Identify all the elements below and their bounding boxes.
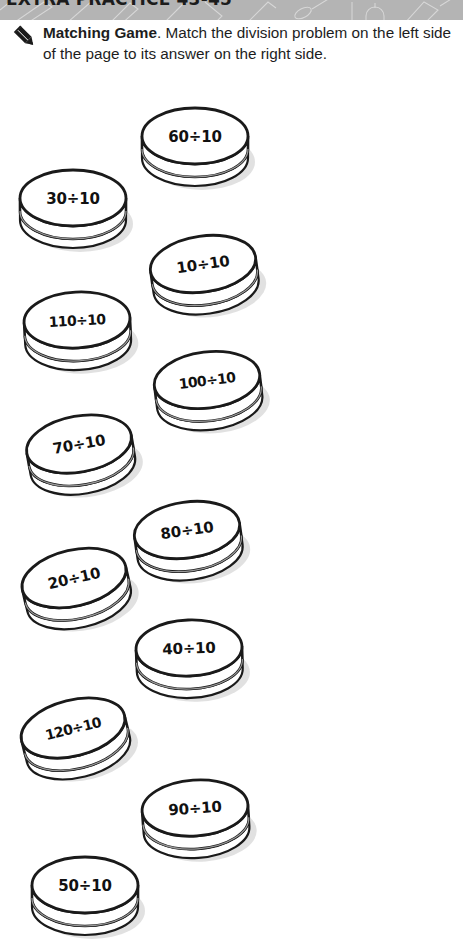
coin-graphic: 70÷10 xyxy=(18,404,146,500)
coin-label: 110÷10 xyxy=(48,311,106,330)
coin-label: 40÷10 xyxy=(162,639,216,659)
coin-label: 60÷10 xyxy=(168,128,221,146)
coin-label: 50÷10 xyxy=(58,877,111,895)
coin-graphic: 10÷10 xyxy=(142,224,270,320)
coin-100-div-10[interactable]: 100÷10 xyxy=(146,340,274,436)
coin-graphic: 30÷10 xyxy=(12,158,140,254)
coin-label: 30÷10 xyxy=(46,190,99,208)
coin-70-div-10[interactable]: 70÷10 xyxy=(18,404,146,500)
coin-60-div-10[interactable]: 60÷10 xyxy=(134,96,262,192)
coin-graphic: 20÷10 xyxy=(13,538,141,634)
coin-50-div-10[interactable]: 50÷10 xyxy=(24,845,152,941)
coin-graphic: 100÷10 xyxy=(146,340,274,436)
coin-10-div-10[interactable]: 10÷10 xyxy=(142,224,270,320)
coin-120-div-10[interactable]: 120÷10 xyxy=(12,688,140,784)
coin-80-div-10[interactable]: 80÷10 xyxy=(126,490,254,586)
coin-graphic: 50÷10 xyxy=(24,845,152,941)
coin-110-div-10[interactable]: 110÷10 xyxy=(16,280,144,376)
coin-graphic: 120÷10 xyxy=(12,688,140,784)
coin-field: 60÷1030÷1010÷10110÷10100÷1070÷1080÷1020÷… xyxy=(0,0,463,952)
coin-30-div-10[interactable]: 30÷10 xyxy=(12,158,140,254)
coin-graphic: 60÷10 xyxy=(134,96,262,192)
coin-40-div-10[interactable]: 40÷10 xyxy=(128,608,256,704)
coin-90-div-10[interactable]: 90÷10 xyxy=(134,768,262,864)
coin-label: 90÷10 xyxy=(168,798,222,820)
coin-graphic: 40÷10 xyxy=(128,608,256,704)
coin-graphic: 110÷10 xyxy=(16,280,144,376)
coin-graphic: 80÷10 xyxy=(126,490,254,586)
coin-graphic: 90÷10 xyxy=(134,768,262,864)
coin-20-div-10[interactable]: 20÷10 xyxy=(13,538,141,634)
